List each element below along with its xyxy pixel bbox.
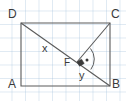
segment-label-x: x	[42, 43, 48, 54]
vertex-label-c: C	[111, 8, 120, 20]
vertex-label-d: D	[8, 8, 17, 20]
vertex-label-b: B	[112, 78, 120, 90]
segment-cf-line	[77, 23, 110, 62]
diagonal-db-line	[21, 23, 110, 86]
angle-arc-icon	[91, 49, 95, 70]
angle-dot-icon	[86, 59, 89, 62]
point-label-f: F	[64, 58, 70, 68]
segment-label-y: y	[79, 70, 85, 81]
geometry-figure	[0, 0, 126, 101]
vertex-label-a: A	[8, 78, 16, 90]
geometry-diagram-canvas: D C A B F x y	[0, 0, 126, 101]
